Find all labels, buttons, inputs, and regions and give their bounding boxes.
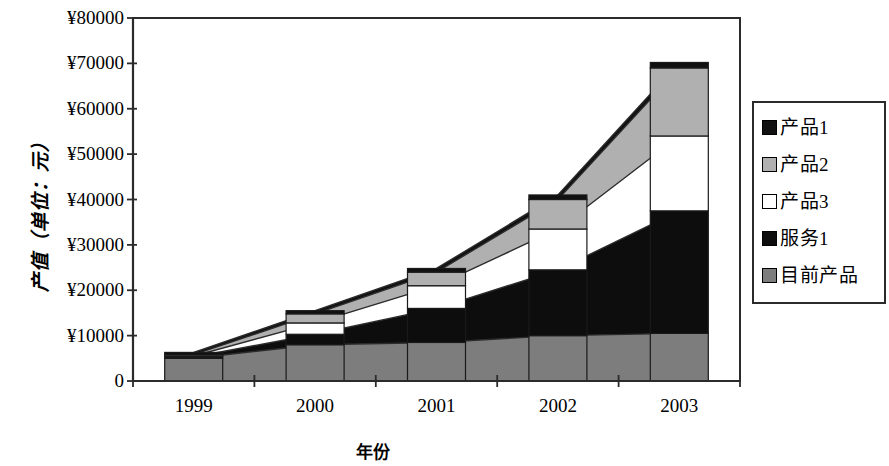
legend-label: 产品3 — [780, 192, 829, 211]
legend-item: 产品1 — [762, 109, 884, 146]
legend-label: 产品1 — [780, 118, 829, 137]
legend-item: 服务1 — [762, 220, 884, 257]
legend-label: 目前产品 — [780, 266, 858, 285]
chart-container: 产值（单位：元） ¥80000¥70000¥60000¥50000¥40000¥… — [0, 0, 889, 466]
legend-item: 目前产品 — [762, 257, 884, 294]
legend-swatch-icon — [762, 157, 777, 172]
x-axis-tick-label: 2003 — [660, 396, 698, 415]
x-axis-tick-label: 2002 — [539, 396, 577, 415]
legend-label: 产品2 — [780, 155, 829, 174]
x-axis-tick-label: 2001 — [418, 396, 456, 415]
x-axis-title: 年份 — [0, 438, 745, 463]
legend-label: 服务1 — [780, 229, 829, 248]
legend-swatch-icon — [762, 231, 777, 246]
legend-swatch-icon — [762, 268, 777, 283]
legend-item: 产品2 — [762, 146, 884, 183]
x-axis-tick-label: 1999 — [175, 396, 213, 415]
legend-item: 产品3 — [762, 183, 884, 220]
chart-legend: 产品1产品2产品3服务1目前产品 — [752, 101, 886, 304]
x-axis-tick-label: 2000 — [296, 396, 334, 415]
legend-swatch-icon — [762, 120, 777, 135]
legend-swatch-icon — [762, 194, 777, 209]
